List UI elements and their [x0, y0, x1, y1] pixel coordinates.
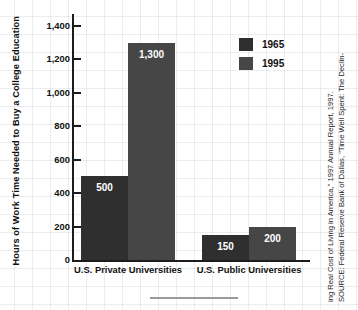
- x-axis-category-label: U.S. Public Universities: [189, 263, 309, 277]
- bar: 1,300: [128, 43, 175, 260]
- y-axis-title-text: Hours of Work Time Needed to Buy a Colle…: [12, 16, 21, 265]
- source-note-line-1: SOURCE: Federal Reserve Bank of Dallas, …: [338, 2, 346, 302]
- y-axis-tick-mark: [74, 159, 81, 161]
- bar: 200: [249, 227, 296, 260]
- y-axis-tick-label: 1,200: [47, 55, 70, 64]
- bar-value-label: 200: [249, 234, 296, 244]
- source-note-line-2: ing Real Cost of Living in America," 199…: [327, 2, 335, 302]
- source-note: SOURCE: Federal Reserve Bank of Dallas, …: [322, 2, 356, 302]
- y-axis-tick-label: 800: [54, 122, 70, 131]
- y-axis-tick-label: 1,400: [47, 21, 70, 30]
- chart-figure: Hours of Work Time Needed to Buy a Colle…: [0, 0, 358, 310]
- x-axis-category-labels: U.S. Private UniversitiesU.S. Public Uni…: [72, 263, 312, 279]
- y-axis-tick-mark: [74, 226, 81, 228]
- bottom-rule: [150, 297, 238, 299]
- legend-label-1995: 1995: [262, 59, 284, 69]
- bar: 150: [202, 235, 249, 260]
- y-axis-tick-mark: [74, 192, 81, 194]
- legend-swatch-1965: [239, 38, 253, 51]
- legend-swatch-1995: [239, 57, 253, 70]
- y-axis-tick-label: 200: [54, 222, 70, 231]
- y-axis-tick-label: 600: [54, 155, 70, 164]
- bar-value-label: 500: [81, 183, 128, 193]
- x-axis-category-label: U.S. Private Universities: [68, 263, 188, 277]
- bar: 500: [81, 176, 128, 260]
- bar-value-label: 150: [202, 242, 249, 252]
- legend-item: 1965: [239, 38, 314, 51]
- chart-legend: 1965 1995: [239, 38, 314, 76]
- y-axis-tick-labels: 02004006008001,0001,2001,400: [26, 14, 70, 262]
- y-axis-tick-mark: [74, 58, 81, 60]
- x-axis-line: [72, 260, 310, 262]
- legend-item: 1995: [239, 57, 314, 70]
- y-axis-tick-mark: [74, 92, 81, 94]
- y-axis-tick-mark: [74, 25, 81, 27]
- legend-label-1965: 1965: [262, 40, 284, 50]
- bar-value-label: 1,300: [128, 50, 175, 60]
- y-axis-tick-mark: [74, 125, 81, 127]
- y-axis-tick-label: 1,000: [47, 88, 70, 97]
- y-axis-title: Hours of Work Time Needed to Buy a Colle…: [6, 0, 28, 282]
- y-axis-tick-label: 400: [54, 188, 70, 197]
